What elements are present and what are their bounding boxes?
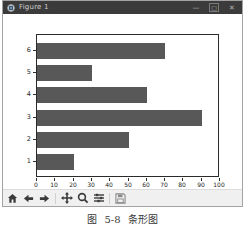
bar-category-3 — [37, 110, 202, 126]
page: { "window": { "title": "Figure 1", "cont… — [0, 0, 245, 224]
x-tick-mark — [146, 178, 147, 181]
close-button[interactable]: ✕ — [226, 2, 238, 13]
x-tick-label: 80 — [174, 182, 190, 188]
y-tick-mark — [33, 50, 36, 51]
y-tick-label: 1 — [19, 158, 31, 165]
titlebar[interactable]: Figure 1 — ▢ ✕ — [3, 1, 242, 14]
y-tick-label: 5 — [19, 69, 31, 76]
figure-window: Figure 1 — ▢ ✕ 1234560102030405060708090… — [2, 0, 243, 207]
toolbar-separator — [55, 193, 56, 204]
x-tick-mark — [182, 178, 183, 181]
y-tick-label: 6 — [19, 47, 31, 54]
minimize-button[interactable]: — — [190, 2, 202, 13]
zoom-icon[interactable] — [76, 192, 89, 205]
y-tick-mark — [33, 139, 36, 140]
figure-canvas: 1234560102030405060708090100 — [3, 14, 242, 190]
x-tick-mark — [91, 178, 92, 181]
save-icon[interactable] — [114, 192, 127, 205]
bar-category-2 — [37, 132, 129, 148]
axes-plot-area — [36, 34, 219, 177]
x-tick-mark — [109, 178, 110, 181]
y-tick-label: 4 — [19, 91, 31, 98]
x-tick-label: 60 — [138, 182, 154, 188]
x-tick-label: 30 — [83, 182, 99, 188]
x-tick-label: 90 — [193, 182, 209, 188]
x-tick-mark — [73, 178, 74, 181]
x-tick-label: 10 — [46, 182, 62, 188]
x-tick-mark — [36, 178, 37, 181]
forward-icon[interactable] — [38, 192, 51, 205]
figure-caption: 图 5-8 条形图 — [0, 211, 245, 224]
bar-category-1 — [37, 154, 74, 170]
pan-icon[interactable] — [60, 192, 73, 205]
bar-category-5 — [37, 65, 92, 81]
y-tick-mark — [33, 72, 36, 73]
y-tick-label: 2 — [19, 136, 31, 143]
x-tick-label: 100 — [211, 182, 227, 188]
window-title: Figure 1 — [19, 1, 49, 14]
matplotlib-logo-icon — [7, 4, 15, 12]
maximize-button[interactable]: ▢ — [209, 3, 219, 12]
bar-category-4 — [37, 87, 147, 103]
home-icon[interactable] — [6, 192, 19, 205]
back-icon[interactable] — [22, 192, 35, 205]
x-tick-mark — [54, 178, 55, 181]
y-tick-mark — [33, 94, 36, 95]
x-tick-label: 20 — [65, 182, 81, 188]
x-tick-mark — [164, 178, 165, 181]
y-tick-label: 3 — [19, 114, 31, 121]
y-tick-mark — [33, 161, 36, 162]
configure-subplots-icon[interactable] — [92, 192, 105, 205]
x-tick-label: 0 — [28, 182, 44, 188]
x-tick-label: 50 — [120, 182, 136, 188]
navigation-toolbar — [3, 189, 242, 206]
x-tick-mark — [201, 178, 202, 181]
toolbar-separator — [109, 193, 110, 204]
y-tick-mark — [33, 117, 36, 118]
bar-category-6 — [37, 43, 165, 59]
x-tick-label: 40 — [101, 182, 117, 188]
x-tick-mark — [128, 178, 129, 181]
x-tick-mark — [219, 178, 220, 181]
x-tick-label: 70 — [156, 182, 172, 188]
